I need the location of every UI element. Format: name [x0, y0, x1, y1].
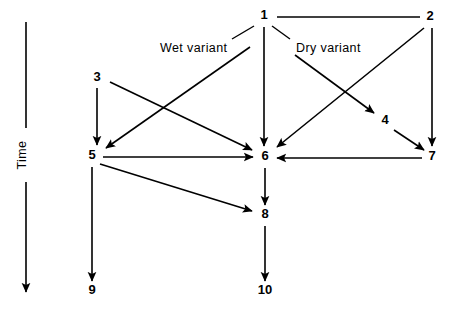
edge-4-to-7 [394, 130, 424, 150]
leader-layer [232, 26, 290, 39]
edge-1-to-4 [295, 55, 374, 113]
node-8[interactable]: 8 [261, 206, 268, 221]
edge-3-to-6 [110, 82, 252, 150]
node-9[interactable]: 9 [88, 282, 95, 297]
leader-wet-variant [232, 26, 254, 39]
node-layer: 1 2 3 4 5 6 7 8 9 10 [88, 7, 435, 297]
wet-variant-label: Wet variant [160, 41, 228, 55]
leader-dry-variant [272, 26, 290, 39]
flow-diagram: Time [0, 0, 453, 318]
node-3[interactable]: 3 [93, 69, 100, 84]
dry-variant-label: Dry variant [296, 41, 361, 55]
node-10[interactable]: 10 [258, 282, 272, 297]
node-2[interactable]: 2 [426, 8, 433, 23]
time-axis-label: Time [15, 141, 29, 170]
node-6[interactable]: 6 [261, 148, 268, 163]
diagram-canvas: Time [0, 0, 453, 318]
node-1[interactable]: 1 [260, 7, 267, 22]
node-5[interactable]: 5 [88, 147, 95, 162]
time-axis: Time [15, 22, 29, 292]
node-7[interactable]: 7 [428, 148, 435, 163]
edge-5-to-8 [100, 164, 252, 211]
node-4[interactable]: 4 [381, 112, 389, 127]
annotation-layer: Wet variant Dry variant [160, 41, 361, 55]
edge-1-to-5 [106, 47, 250, 148]
